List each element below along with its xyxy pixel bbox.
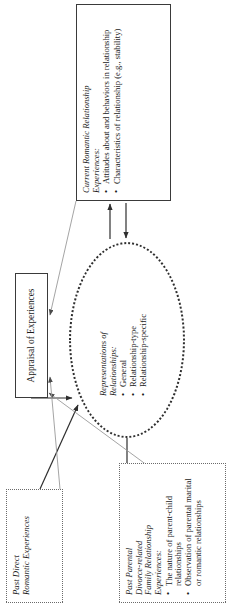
connector-current-appraisal [50, 201, 76, 315]
connector-representations-current [110, 203, 126, 239]
node-past-family-title: Past Parental Divorce-related Family Rel… [125, 471, 164, 595]
list-item: Attitudes about and behaviors in relatio… [102, 12, 111, 193]
connector-pastdirect-appraisal [50, 377, 60, 489]
list-item: The nature of parent-child relationships [165, 471, 184, 595]
node-current-romantic-bullets: Attitudes about and behaviors in relatio… [102, 12, 122, 193]
node-representations-of-relationships: Representations of Relationships: Genera… [69, 242, 185, 438]
node-current-romantic-title: Current Romantic Relationship Experience… [82, 12, 101, 193]
list-item: Characteristics of relationship (e.g., s… [113, 12, 122, 193]
node-past-parental-family-experiences: Past Parental Divorce-related Family Rel… [119, 463, 226, 603]
node-past-direct-romantic-experiences: Past Direct Romantic Experiences [6, 489, 63, 603]
node-representations-title: Representations of Relationships: [99, 266, 118, 396]
node-representations-content: Representations of Relationships: Genera… [99, 266, 149, 396]
node-appraisal-label: Appraisal of Experiences [26, 289, 36, 383]
node-past-family-bullets: The nature of parent-child relationships… [165, 471, 204, 595]
node-past-direct-title: Past Direct Romantic Experiences [12, 497, 32, 595]
list-item: Observation of parental marital or roman… [184, 471, 203, 595]
node-appraisal-of-experiences: Appraisal of Experiences [15, 273, 48, 398]
diagram-canvas: Current Romantic Relationship Experience… [0, 0, 247, 605]
list-item: Relationship-specific [139, 266, 148, 396]
node-current-romantic-relationship: Current Romantic Relationship Experience… [76, 4, 171, 201]
node-representations-bullets: General Relationship-type Relationship-s… [119, 266, 148, 396]
